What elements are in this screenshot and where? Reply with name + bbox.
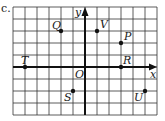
point-p	[119, 41, 123, 45]
y-axis-label: y	[74, 6, 82, 19]
point-label-p: P	[123, 30, 132, 43]
point-label-r: R	[122, 54, 131, 67]
point-label-q: Q	[52, 19, 61, 32]
coordinate-plane: c. x y O TQVPRSU	[0, 0, 165, 121]
point-label-t: T	[21, 54, 30, 67]
y-axis-arrow-icon	[82, 7, 89, 16]
x-axis-label: x	[150, 68, 157, 81]
point-v	[95, 29, 99, 33]
point-u	[143, 89, 147, 93]
point-label-v: V	[100, 18, 109, 31]
origin-label: O	[75, 68, 84, 81]
point-label-u: U	[134, 91, 144, 104]
figure-prefix-label: c.	[1, 2, 11, 15]
point-label-s: S	[64, 91, 72, 104]
